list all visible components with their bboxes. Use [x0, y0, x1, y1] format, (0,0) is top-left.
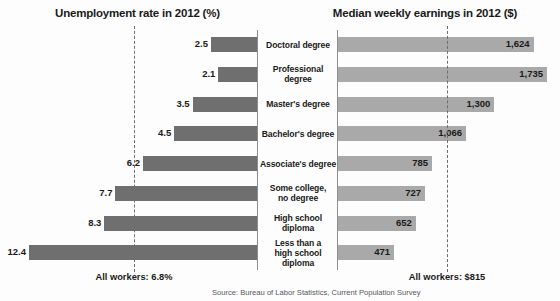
- unemployment-bar: [115, 186, 257, 201]
- unemployment-bar: [193, 97, 257, 112]
- earnings-value-label: 471: [360, 244, 394, 259]
- unemployment-row: 2.1: [0, 60, 258, 89]
- left-axis-spine: [257, 30, 258, 270]
- right-chart-title: Median weekly earnings in 2012 ($): [290, 7, 560, 19]
- category-label: High school diploma: [258, 209, 338, 238]
- all-workers-earnings-reference-line: [447, 26, 448, 272]
- category-label-line1: Master's degree: [266, 99, 330, 109]
- unemployment-bar: [29, 245, 257, 260]
- category-label: Less than ahigh school diploma: [258, 238, 338, 267]
- unemployment-bar: [143, 156, 257, 171]
- category-label: Associate's degree: [258, 149, 338, 178]
- earnings-value-label: 1,624: [500, 36, 534, 51]
- source-note: Source: Bureau of Labor Statistics, Curr…: [212, 288, 421, 297]
- earnings-plot-area: 1,6241,7351,3001,066785727652471: [337, 30, 560, 268]
- earnings-row: 785: [337, 149, 560, 178]
- category-label: Doctoral degree: [258, 30, 338, 59]
- unemployment-value-label: 8.3: [88, 215, 104, 230]
- unemployment-bar: [218, 67, 257, 82]
- unemployment-row: 8.3: [0, 209, 258, 238]
- unemployment-value-label: 12.4: [8, 244, 30, 259]
- category-label-line1: Some college,: [270, 183, 327, 193]
- unemployment-bar: [174, 126, 257, 141]
- all-workers-unemployment-label: All workers: 6.8%: [96, 272, 173, 282]
- category-label-column: Doctoral degreeProfessional degreeMaster…: [258, 30, 338, 268]
- earnings-row: 471: [337, 238, 560, 267]
- category-label-line1: Less than a: [275, 238, 321, 248]
- right-axis-spine: [337, 30, 338, 270]
- unemployment-row: 6.2: [0, 149, 258, 178]
- earnings-row: 1,066: [337, 119, 560, 148]
- education-pays-chart: Unemployment rate in 2012 (%) Median wee…: [0, 0, 560, 301]
- earnings-row: 1,624: [337, 30, 560, 59]
- unemployment-value-label: 2.5: [195, 36, 211, 51]
- earnings-value-label: 727: [391, 185, 425, 200]
- earnings-row: 1,735: [337, 60, 560, 89]
- category-label-line2: high school diploma: [274, 248, 321, 268]
- earnings-value-label: 785: [398, 155, 432, 170]
- category-label-line1: High school diploma: [274, 213, 322, 233]
- category-label: Some college,no degree: [258, 179, 338, 208]
- unemployment-row: 7.7: [0, 179, 258, 208]
- category-label: Master's degree: [258, 90, 338, 119]
- category-label: Professional degree: [258, 60, 338, 89]
- earnings-value-label: 1,300: [460, 96, 494, 111]
- category-label-line1: Associate's degree: [260, 159, 336, 169]
- earnings-value-label: 652: [382, 215, 416, 230]
- unemployment-row: 3.5: [0, 90, 258, 119]
- unemployment-value-label: 3.5: [176, 96, 192, 111]
- category-label-line1: Professional degree: [273, 64, 323, 84]
- earnings-row: 652: [337, 209, 560, 238]
- category-label-line2: no degree: [278, 193, 318, 203]
- category-label: Bachelor's degree: [258, 119, 338, 148]
- earnings-row: 1,300: [337, 90, 560, 119]
- unemployment-bar: [211, 37, 257, 52]
- unemployment-bar: [104, 216, 257, 231]
- unemployment-plot-area: 2.52.13.54.56.27.78.312.4: [0, 30, 258, 268]
- unemployment-row: 12.4: [0, 238, 258, 267]
- earnings-row: 727: [337, 179, 560, 208]
- all-workers-earnings-label: All workers: $815: [409, 272, 485, 282]
- all-workers-unemployment-reference-line: [134, 26, 135, 272]
- category-label-line1: Bachelor's degree: [262, 129, 334, 139]
- left-chart-title: Unemployment rate in 2012 (%): [0, 7, 275, 19]
- unemployment-value-label: 7.7: [99, 185, 115, 200]
- earnings-value-label: 1,066: [432, 125, 466, 140]
- category-label-line1: Doctoral degree: [266, 40, 330, 50]
- unemployment-value-label: 4.5: [158, 125, 174, 140]
- unemployment-row: 2.5: [0, 30, 258, 59]
- earnings-value-label: 1,735: [513, 66, 547, 81]
- unemployment-row: 4.5: [0, 119, 258, 148]
- unemployment-value-label: 2.1: [202, 66, 218, 81]
